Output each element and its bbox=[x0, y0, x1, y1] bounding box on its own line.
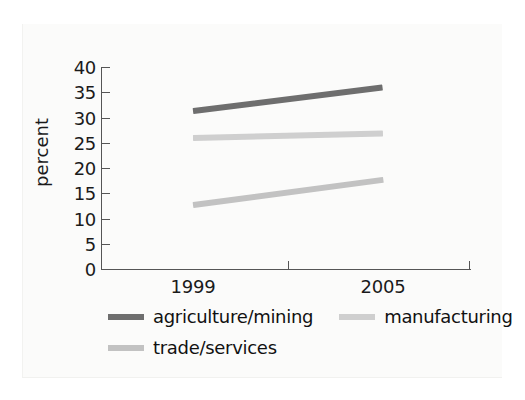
y-tick-40 bbox=[101, 67, 110, 68]
y-tick-10 bbox=[101, 219, 110, 220]
y-tick-15 bbox=[101, 193, 110, 194]
y-tick-label-15: 15 bbox=[56, 183, 96, 204]
y-tick-label-5: 5 bbox=[56, 234, 96, 255]
x-tick-label-1999: 1999 bbox=[153, 276, 233, 297]
chart-legend: agriculture/mining manufacturing trade/s… bbox=[108, 300, 488, 370]
legend-swatch-icon-trade-services bbox=[108, 345, 144, 351]
y-tick-label-group: 40 35 30 25 20 15 10 5 0 bbox=[52, 0, 96, 300]
legend-item-agriculture-mining[interactable]: agriculture/mining bbox=[108, 306, 313, 327]
legend-item-manufacturing[interactable]: manufacturing bbox=[339, 306, 512, 327]
y-axis-title: percent bbox=[31, 108, 52, 198]
x-axis-line bbox=[101, 269, 471, 270]
legend-label-trade-services: trade/services bbox=[153, 337, 277, 358]
series-line-trade-services bbox=[193, 177, 384, 208]
y-tick-5 bbox=[101, 244, 110, 245]
legend-swatch-icon-agriculture-mining bbox=[108, 314, 144, 320]
legend-item-trade-services[interactable]: trade/services bbox=[108, 337, 277, 358]
legend-label-agriculture-mining: agriculture/mining bbox=[153, 306, 313, 327]
y-tick-label-30: 30 bbox=[56, 108, 96, 129]
chart-screenshot: 40 35 30 25 20 15 10 5 0 percent 1999 20… bbox=[0, 0, 525, 400]
y-tick-30 bbox=[101, 118, 110, 119]
y-tick-25 bbox=[101, 143, 110, 144]
y-tick-label-35: 35 bbox=[56, 82, 96, 103]
y-tick-label-10: 10 bbox=[56, 209, 96, 230]
y-tick-label-25: 25 bbox=[56, 133, 96, 154]
x-tick-label-2005: 2005 bbox=[343, 276, 423, 297]
legend-swatch-icon-manufacturing bbox=[339, 314, 375, 320]
y-tick-label-40: 40 bbox=[56, 57, 96, 78]
y-tick-label-0: 0 bbox=[56, 259, 96, 280]
x-axis-end-cap bbox=[469, 261, 470, 270]
y-tick-label-20: 20 bbox=[56, 158, 96, 179]
y-tick-35 bbox=[101, 92, 110, 93]
y-tick-20 bbox=[101, 168, 110, 169]
legend-row-secondary: trade/services bbox=[108, 337, 277, 358]
legend-label-manufacturing: manufacturing bbox=[384, 306, 512, 327]
series-line-manufacturing bbox=[193, 130, 383, 141]
x-tick-mid bbox=[288, 261, 289, 270]
series-line-agriculture-mining bbox=[193, 85, 384, 115]
legend-row-primary: agriculture/mining manufacturing bbox=[108, 306, 513, 327]
